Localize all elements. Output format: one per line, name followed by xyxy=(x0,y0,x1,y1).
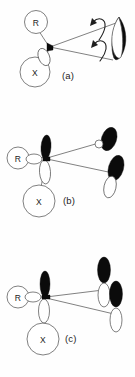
panel-c: R X (c xyxy=(0,250,135,377)
orbital-lobe-filled-b2 xyxy=(102,153,127,199)
substituent-label-x: X xyxy=(36,197,42,207)
panel-b: R X xyxy=(0,125,135,250)
panel-a-bonds xyxy=(50,23,116,60)
substituent-label-x: X xyxy=(40,335,46,345)
orbital-lobe-filled-b1 xyxy=(95,125,120,152)
panel-a: R X xyxy=(0,0,135,125)
substituent-label-r: R xyxy=(15,154,21,164)
panel-c-canvas: R X (c xyxy=(0,250,135,377)
substituent-label-x: X xyxy=(32,68,38,78)
substituent-circle-r: R xyxy=(25,11,48,34)
panel-label-b: (b) xyxy=(63,195,75,206)
substituent-circle-x: X xyxy=(27,323,59,355)
panel-a-central-atom xyxy=(47,43,53,51)
orbital-lobe-filled-c1 xyxy=(98,257,111,307)
panel-c-central-atom xyxy=(42,295,50,299)
substituent-circle-r: R xyxy=(7,147,29,169)
substituent-circle-x: X xyxy=(23,185,55,217)
orbital-lobe-filled-c2 xyxy=(110,281,123,332)
orbital-small-open-b xyxy=(26,154,42,164)
panel-label-a: (a) xyxy=(62,70,74,81)
panel-label-c: (c) xyxy=(65,333,77,344)
substituent-label-r: R xyxy=(33,18,39,28)
panel-b-central-atom xyxy=(43,156,50,161)
orbital-diagram-figure: R X xyxy=(0,0,135,377)
orbital-small-open-c xyxy=(25,292,41,302)
panel-a-canvas: R X xyxy=(0,0,135,125)
rotation-arrow-upper xyxy=(90,18,105,40)
panel-b-canvas: R X xyxy=(0,125,135,250)
substituent-label-r: R xyxy=(15,293,21,303)
